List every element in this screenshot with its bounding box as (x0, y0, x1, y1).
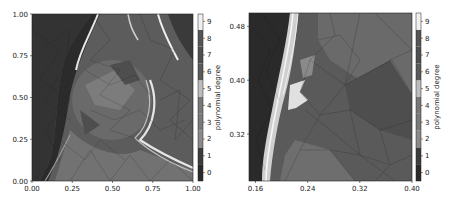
left-ytick-3: 0.75 (12, 52, 28, 60)
right-cbar-tick-8: 8 (425, 35, 429, 43)
left-cbar-tick-6: 6 (207, 68, 212, 76)
right-ytick-1: 0.40 (229, 77, 245, 85)
right-cbar-tick-1: 1 (425, 152, 429, 160)
right-ytick-2: 0.48 (229, 23, 245, 31)
right-y-ticks: 0.32 0.40 0.48 (229, 23, 249, 139)
right-ytick-0: 0.32 (229, 131, 245, 139)
right-cbar-tick-5: 5 (425, 85, 429, 93)
left-cbar-tick-9: 9 (207, 18, 211, 26)
left-ytick-1: 0.25 (12, 136, 28, 144)
right-colorbar: 0 1 2 3 4 5 6 7 8 9 polynomial degree (416, 13, 441, 181)
right-plot: 0.32 0.40 0.48 0.16 0.24 0.32 0.40 (229, 13, 441, 193)
right-cbar-tick-9: 9 (425, 18, 429, 26)
left-xtick-0: 0.00 (24, 185, 40, 193)
left-y-ticks: 0.00 0.25 0.50 0.75 1.00 (12, 11, 32, 186)
left-mesh (32, 14, 193, 181)
left-xtick-2: 0.50 (105, 185, 121, 193)
left-cbar-tick-2: 2 (207, 135, 211, 143)
right-cbar-tick-2: 2 (425, 135, 429, 143)
left-x-ticks: 0.00 0.25 0.50 0.75 1.00 (24, 181, 201, 193)
left-cbar-tick-5: 5 (207, 85, 211, 93)
left-ytick-4: 1.00 (12, 11, 28, 19)
left-ytick-2: 0.50 (12, 94, 28, 102)
left-colorbar-label: polynomial degree (214, 65, 222, 130)
left-cbar-tick-8: 8 (207, 35, 211, 43)
right-colorbar-label: polynomial degree (433, 64, 441, 129)
left-xtick-4: 1.00 (185, 185, 201, 193)
right-cbar-tick-3: 3 (425, 119, 429, 127)
left-cbar-tick-4: 4 (207, 102, 212, 110)
left-cbar-tick-7: 7 (207, 51, 211, 59)
left-cbar-tick-1: 1 (207, 152, 211, 160)
left-plot: 0.00 0.25 0.50 0.75 1.00 0.00 0.25 0.50 … (12, 11, 222, 194)
right-cbar-tick-6: 6 (425, 68, 430, 76)
right-xtick-2: 0.32 (352, 185, 368, 193)
right-cbar-tick-7: 7 (425, 51, 429, 59)
right-cbar-tick-0: 0 (425, 169, 429, 177)
left-colorbar: 0 1 2 3 4 5 6 7 8 9 polynomial degree (198, 14, 222, 181)
right-xtick-3: 0.40 (404, 185, 420, 193)
right-x-ticks: 0.16 0.24 0.32 0.40 (248, 181, 420, 193)
left-cbar-tick-0: 0 (207, 169, 211, 177)
right-xtick-0: 0.16 (248, 185, 264, 193)
left-xtick-1: 0.25 (64, 185, 80, 193)
right-mesh (249, 13, 412, 181)
right-cbar-tick-4: 4 (425, 102, 430, 110)
left-xtick-3: 0.75 (145, 185, 161, 193)
left-cbar-tick-3: 3 (207, 119, 211, 127)
figure: 0.00 0.25 0.50 0.75 1.00 0.00 0.25 0.50 … (0, 0, 458, 201)
right-xtick-1: 0.24 (300, 185, 316, 193)
